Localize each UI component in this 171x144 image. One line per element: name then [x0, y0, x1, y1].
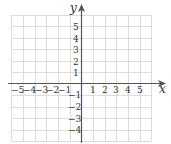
y-tick-label: −2 [68, 102, 81, 112]
y-tick-label: 1 [73, 68, 79, 78]
y-tick-label: −3 [68, 114, 82, 124]
coordinate-plane: y x −5 −4 −3 −2 −1 1 2 3 4 5 5 4 3 2 1 −… [0, 0, 171, 144]
y-tick-label: −4 [68, 125, 82, 135]
x-tick-label: 4 [125, 85, 131, 95]
x-tick-label: 2 [102, 85, 108, 95]
x-axis-label: x [159, 82, 166, 96]
y-axis-label: y [69, 1, 77, 15]
x-tick-label: 3 [113, 85, 119, 95]
x-tick-label: 1 [90, 85, 96, 95]
y-tick-label: 3 [73, 45, 79, 55]
x-tick-label: 5 [137, 85, 143, 95]
y-tick-label: 2 [73, 57, 79, 67]
y-tick-label: 4 [73, 34, 79, 44]
y-tick-label: 5 [73, 22, 79, 32]
y-tick-label: −1 [68, 90, 81, 100]
